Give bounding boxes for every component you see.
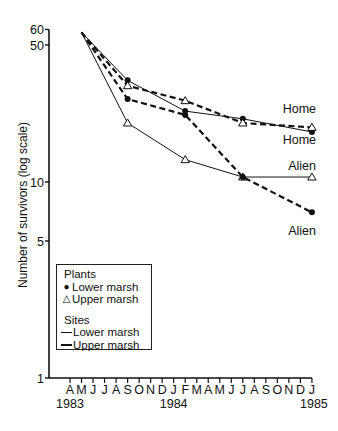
series-line-dashed-dot — [82, 32, 312, 212]
legend-item-lower-marsh-site: Lower marsh — [61, 326, 151, 339]
open-triangle-marker — [181, 156, 189, 163]
x-tick-label: J — [171, 383, 177, 397]
x-tick-label: J — [101, 383, 107, 397]
y-tick-label: 5 — [37, 235, 44, 249]
legend: Plants ● Lower marsh △ Upper marsh Sites… — [56, 264, 152, 350]
x-tick-label: S — [262, 383, 270, 397]
x-tick-label: O — [134, 383, 144, 397]
x-tick-label: F — [181, 383, 189, 397]
legend-item-upper-marsh-plants: △ Upper marsh — [61, 293, 151, 306]
series-end-label: Alien — [288, 159, 316, 173]
open-triangle-marker — [123, 119, 131, 126]
axes: 15105060AMJJASONDJFMAMJJASONDJ1983198419… — [30, 23, 328, 411]
legend-label: Lower marsh — [72, 281, 138, 294]
data-series — [82, 32, 317, 215]
open-triangle-marker — [123, 82, 131, 89]
legend-label: Upper marsh — [72, 293, 138, 306]
dashed-line-icon — [61, 344, 72, 346]
filled-circle-marker — [309, 209, 315, 215]
x-tick-label: O — [272, 383, 282, 397]
end-labels: HomeHomeAlienAlien — [283, 102, 316, 238]
x-year-label: 1984 — [160, 397, 188, 411]
legend-item-lower-marsh-plants: ● Lower marsh — [61, 281, 151, 294]
survival-chart: 15105060AMJJASONDJFMAMJJASONDJ1983198419… — [0, 0, 338, 431]
x-tick-label: D — [158, 383, 167, 397]
x-tick-label: A — [204, 383, 213, 397]
x-tick-label: M — [192, 383, 202, 397]
filled-circle-icon: ● — [61, 281, 72, 294]
y-axis-label: Number of survivors (log scale) — [16, 122, 30, 288]
x-tick-label: J — [90, 383, 96, 397]
legend-sites-title: Sites — [64, 314, 151, 327]
legend-label: Lower marsh — [73, 326, 139, 339]
legend-label: Upper marsh — [73, 339, 139, 352]
x-tick-label: J — [309, 383, 315, 397]
series-end-label: Home — [283, 102, 316, 116]
x-tick-label: N — [284, 383, 293, 397]
x-tick-label: M — [215, 383, 225, 397]
x-tick-label: A — [112, 383, 121, 397]
filled-circle-marker — [182, 112, 188, 118]
x-year-label: 1985 — [300, 397, 328, 411]
x-tick-label: S — [123, 383, 131, 397]
x-tick-label: N — [146, 383, 155, 397]
open-triangle-icon: △ — [61, 293, 72, 306]
series-line-solid-triangle — [82, 32, 312, 177]
x-tick-label: A — [250, 383, 259, 397]
y-tick-label: 50 — [30, 39, 44, 53]
y-tick-label: 60 — [30, 23, 44, 37]
y-tick-label: 1 — [37, 372, 44, 386]
x-tick-label: M — [76, 383, 86, 397]
filled-circle-marker — [125, 96, 131, 102]
y-tick-label: 10 — [30, 176, 44, 190]
x-tick-label: J — [228, 383, 234, 397]
legend-item-upper-marsh-site: Upper marsh — [61, 339, 151, 352]
x-tick-label: J — [240, 383, 246, 397]
x-year-label: 1983 — [56, 397, 84, 411]
legend-plants-title: Plants — [64, 268, 151, 281]
filled-circle-marker — [240, 174, 246, 180]
x-tick-label: A — [66, 383, 75, 397]
series-end-label: Alien — [288, 224, 316, 238]
x-tick-label: D — [296, 383, 305, 397]
solid-line-icon — [61, 332, 72, 333]
series-end-label: Home — [283, 133, 316, 147]
